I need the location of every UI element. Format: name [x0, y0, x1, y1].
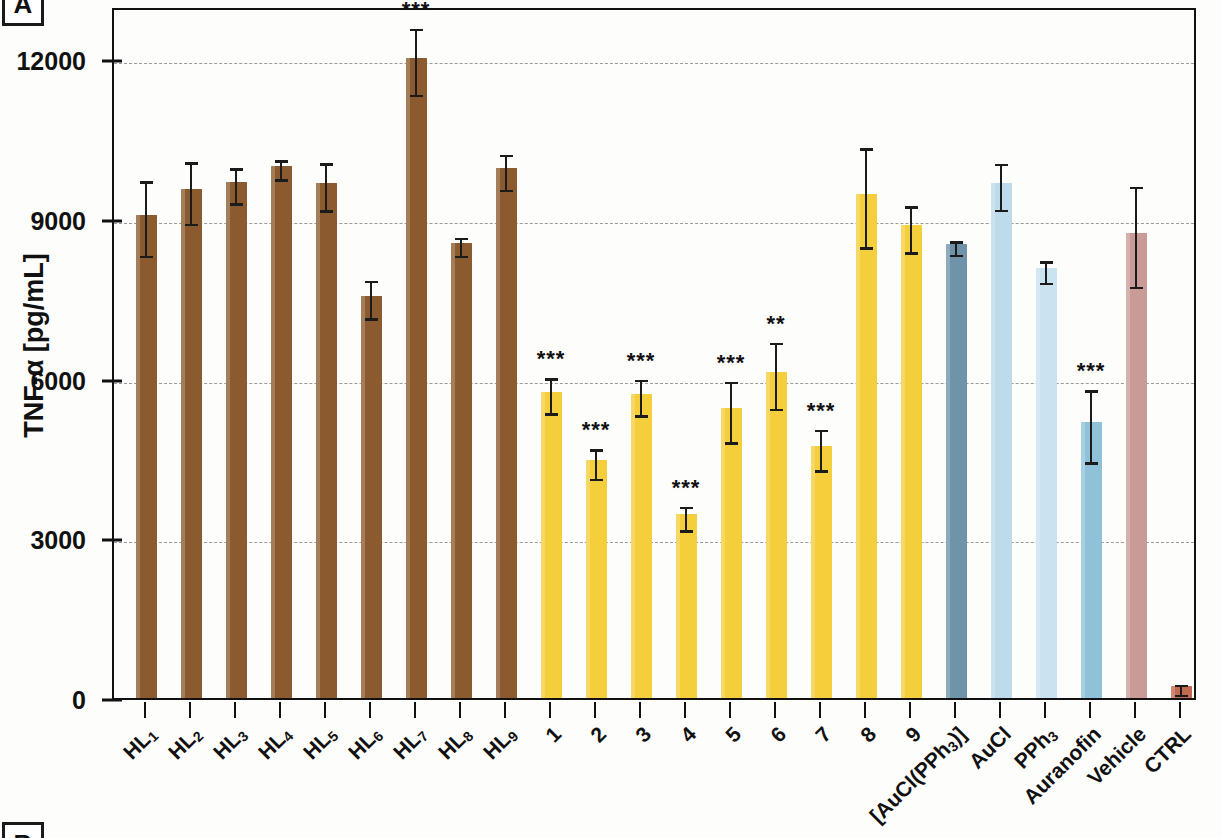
error-cap-top-HL1 — [140, 181, 153, 184]
x-tick-HL1 — [144, 702, 146, 718]
bar-8 — [856, 194, 877, 698]
x-tick-[AuCl(PPh3)] — [954, 702, 956, 718]
x-tick-5 — [729, 702, 731, 718]
error-cap-top-2 — [590, 449, 603, 452]
error-bar-7 — [820, 430, 823, 470]
error-cap-bottom-PPh3 — [1040, 283, 1053, 286]
bar-2 — [586, 460, 607, 698]
bar-7 — [811, 446, 832, 698]
error-cap-bottom-HL5 — [320, 210, 333, 213]
bar-HL4 — [271, 166, 292, 698]
error-bar-HL2 — [190, 162, 193, 224]
error-cap-top-HL7 — [410, 29, 423, 32]
significance-marker-1: *** — [537, 348, 566, 370]
error-bar-HL6 — [370, 281, 373, 318]
x-tick-3 — [639, 702, 641, 718]
error-cap-top-[AuCl(PPh3)] — [950, 241, 963, 244]
x-tick-2 — [594, 702, 596, 718]
error-cap-bottom-7 — [815, 470, 828, 473]
plot-inner: ************************** — [114, 10, 1194, 698]
error-bar-8 — [865, 148, 868, 247]
error-cap-top-Auranofin — [1085, 390, 1098, 393]
significance-marker-6: ** — [766, 313, 785, 335]
x-tick-6 — [774, 702, 776, 718]
significance-marker-2: *** — [582, 419, 611, 441]
x-tick-HL9 — [504, 702, 506, 718]
significance-marker-7: *** — [807, 400, 836, 422]
error-cap-top-HL2 — [185, 162, 198, 165]
error-bar-6 — [775, 343, 778, 409]
error-cap-bottom-2 — [590, 479, 603, 482]
significance-marker-3: *** — [627, 350, 656, 372]
error-bar-Auranofin — [1090, 390, 1093, 462]
x-tick-1 — [549, 702, 551, 718]
bar-HL7 — [406, 58, 427, 698]
error-cap-bottom-HL2 — [185, 224, 198, 227]
error-bar-4 — [685, 507, 688, 530]
error-cap-bottom-HL3 — [230, 203, 243, 206]
plot-area: ************************** — [112, 8, 1196, 700]
error-cap-top-4 — [680, 507, 693, 510]
bar-4 — [676, 514, 697, 698]
bar-1 — [541, 392, 562, 698]
error-cap-top-1 — [545, 378, 558, 381]
error-cap-top-Vehicle — [1130, 187, 1143, 190]
error-bar-HL5 — [325, 163, 328, 210]
error-cap-top-HL4 — [275, 160, 288, 163]
x-tick-Vehicle — [1134, 702, 1136, 718]
x-tick-7 — [819, 702, 821, 718]
x-tick-9 — [909, 702, 911, 718]
error-bar-AuCl — [1000, 164, 1003, 210]
error-bar-Vehicle — [1135, 187, 1138, 287]
significance-marker-HL7: *** — [402, 0, 431, 21]
error-cap-bottom-HL9 — [500, 190, 513, 193]
error-cap-top-3 — [635, 380, 648, 383]
figure-panel-a: A B TNF-α [pg/mL] 030006000900012000 ***… — [0, 0, 1222, 838]
x-tick-HL3 — [234, 702, 236, 718]
y-tick-label-3000: 3000 — [0, 526, 86, 555]
error-cap-top-6 — [770, 343, 783, 346]
error-bar-9 — [910, 206, 913, 252]
error-cap-bottom-HL4 — [275, 179, 288, 182]
error-cap-bottom-[AuCl(PPh3)] — [950, 255, 963, 258]
error-cap-top-5 — [725, 382, 738, 385]
y-tick-label-9000: 9000 — [0, 206, 86, 235]
error-bar-HL8 — [460, 238, 463, 256]
error-bar-HL1 — [145, 181, 148, 256]
error-cap-bottom-5 — [725, 442, 738, 445]
error-cap-bottom-1 — [545, 413, 558, 416]
error-cap-bottom-HL6 — [365, 318, 378, 321]
error-cap-top-HL3 — [230, 168, 243, 171]
error-cap-top-HL8 — [455, 238, 468, 241]
error-cap-bottom-9 — [905, 252, 918, 255]
error-cap-bottom-4 — [680, 530, 693, 533]
x-tick-CTRL — [1179, 702, 1181, 718]
x-tick-HL4 — [279, 702, 281, 718]
bar-HL3 — [226, 182, 247, 698]
x-tick-Auranofin — [1089, 702, 1091, 718]
error-bar-3 — [640, 380, 643, 415]
error-cap-bottom-HL7 — [410, 95, 423, 98]
bar-3 — [631, 394, 652, 698]
error-cap-bottom-HL1 — [140, 256, 153, 259]
y-tick-label-6000: 6000 — [0, 366, 86, 395]
x-tick-8 — [864, 702, 866, 718]
bar-HL6 — [361, 296, 382, 698]
y-tick-label-12000: 12000 — [0, 47, 86, 76]
significance-marker-Auranofin: *** — [1077, 360, 1106, 382]
error-cap-top-9 — [905, 206, 918, 209]
error-cap-bottom-HL8 — [455, 256, 468, 259]
error-cap-bottom-AuCl — [995, 210, 1008, 213]
bar-[AuCl(PPh3)] — [946, 244, 967, 698]
error-cap-bottom-Auranofin — [1085, 462, 1098, 465]
error-cap-top-HL6 — [365, 281, 378, 284]
error-cap-top-7 — [815, 430, 828, 433]
x-tick-PPh3 — [1044, 702, 1046, 718]
bar-9 — [901, 225, 922, 698]
bar-HL5 — [316, 183, 337, 698]
error-cap-top-HL5 — [320, 163, 333, 166]
y-tick-label-0: 0 — [0, 686, 86, 715]
gridline-12000 — [114, 63, 1194, 64]
error-cap-top-CTRL — [1175, 685, 1188, 688]
x-tick-AuCl — [999, 702, 1001, 718]
